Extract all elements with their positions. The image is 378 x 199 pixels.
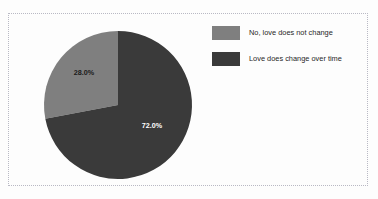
legend-swatch-icon-0: [212, 26, 240, 40]
legend-swatch-icon-1: [212, 52, 240, 66]
slice-label-28: 28.0%: [74, 68, 95, 77]
legend-label-1: Love does change over time: [249, 52, 342, 66]
chart-legend: No, love does not change Love does chang…: [212, 26, 362, 78]
legend-item-love-does-change-over-time[interactable]: Love does change over time: [212, 52, 362, 66]
legend-item-no-love-does-not-change[interactable]: No, love does not change: [212, 26, 362, 40]
legend-label-0: No, love does not change: [249, 26, 333, 40]
pie-chart-figure: Does love change over time? 28.0% 72.0% …: [0, 0, 378, 199]
slice-label-72: 72.0%: [142, 121, 163, 130]
